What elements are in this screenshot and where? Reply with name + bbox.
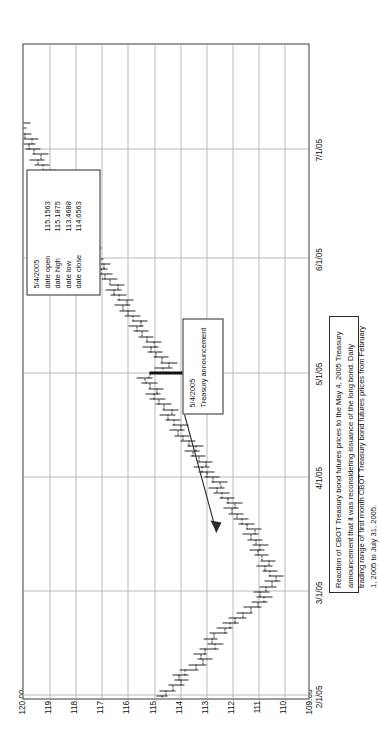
ohlc-open-tick <box>259 591 260 593</box>
price-gridline <box>101 44 102 698</box>
ohlc-open-tick <box>178 674 179 676</box>
ohlc-open-tick <box>149 383 150 385</box>
ohlc-close-tick <box>31 142 32 144</box>
ohlc-open-tick <box>250 534 251 536</box>
ohlc-close-tick <box>127 313 128 315</box>
price-gridline <box>284 44 285 698</box>
ohlc-bar <box>264 579 280 583</box>
ohlc-open-tick <box>257 549 258 551</box>
ohlc-close-tick <box>158 402 159 404</box>
ohlc-close-tick <box>250 610 251 612</box>
ohlc-bar <box>23 136 38 140</box>
ohlc-open-tick <box>173 419 174 421</box>
ohlc-open-tick <box>33 149 34 151</box>
ohlc-open-tick <box>202 659 203 661</box>
annotation-ohlc-row: date high115.1875 <box>52 176 63 288</box>
ohlc-bar <box>207 641 223 645</box>
ohlc-bar <box>22 126 26 130</box>
ohlc-bar <box>238 522 253 526</box>
ohlc-bar <box>222 620 238 624</box>
ohlc-bar <box>101 277 116 281</box>
ohlc-close-tick <box>241 522 242 524</box>
ohlc-close-tick <box>122 308 123 310</box>
price-gridline <box>127 44 128 698</box>
ohlc-open-tick <box>255 539 256 541</box>
ohlc-bar <box>172 423 187 427</box>
ohlc-close-tick <box>202 662 203 664</box>
ohlc-open-tick <box>22 123 23 125</box>
ohlc-close-tick <box>268 563 269 565</box>
annotation-ohlc-value: 113.4688 <box>63 201 74 231</box>
ohlc-open-tick <box>231 508 232 510</box>
ohlc-bar <box>136 376 152 380</box>
ohlc-bar <box>268 574 283 578</box>
ohlc-open-tick <box>40 154 41 156</box>
ohlc-bar <box>256 594 272 598</box>
ohlc-open-tick <box>153 393 154 395</box>
ohlc-open-tick <box>242 612 243 614</box>
ohlc-bar <box>188 662 205 666</box>
ohlc-open-tick <box>103 263 104 265</box>
ohlc-close-tick <box>156 391 157 393</box>
annotation-ohlc-value: 115.1875 <box>52 201 63 231</box>
ohlc-close-tick <box>254 532 255 534</box>
ohlc-close-tick <box>259 594 260 596</box>
ohlc-bar <box>114 303 129 307</box>
ohlc-bar <box>219 496 234 500</box>
ohlc-open-tick <box>171 409 172 411</box>
ohlc-bar <box>247 537 262 541</box>
ohlc-open-tick <box>264 565 265 567</box>
date-tick-label: 2/1/05 <box>314 674 323 718</box>
ohlc-close-tick <box>113 292 114 294</box>
ohlc-bar <box>105 287 120 291</box>
ohlc-close-tick <box>180 428 181 430</box>
ohlc-close-tick <box>271 584 272 586</box>
ohlc-close-tick <box>204 652 205 654</box>
ohlc-high-low-wick <box>197 658 212 659</box>
ohlc-open-tick <box>109 279 110 281</box>
ohlc-high-low-wick <box>259 586 276 587</box>
ohlc-open-tick <box>211 638 212 640</box>
ohlc-close-tick <box>250 537 251 539</box>
ohlc-open-tick <box>24 133 25 135</box>
ohlc-open-tick <box>254 529 255 531</box>
ohlc-bar <box>172 673 188 677</box>
ohlc-close-tick <box>192 454 193 456</box>
ohlc-close-tick <box>216 490 217 492</box>
ohlc-close-tick <box>234 620 235 622</box>
ohlc-close-tick <box>227 501 228 503</box>
ohlc-bar <box>160 360 177 364</box>
ohlc-bar <box>208 485 224 489</box>
ohlc-close-tick <box>149 386 150 388</box>
ohlc-open-tick <box>126 300 127 302</box>
ohlc-open-tick <box>268 560 269 562</box>
ohlc-bar <box>32 152 48 156</box>
ohlc-bar <box>124 313 139 317</box>
ohlc-close-tick <box>126 303 127 305</box>
ohlc-open-tick <box>161 357 162 359</box>
ohlc-open-tick <box>250 607 251 609</box>
ohlc-open-tick <box>259 544 260 546</box>
ohlc-close-tick <box>265 589 266 591</box>
ohlc-open-tick <box>150 346 151 348</box>
ohlc-bar <box>128 324 143 328</box>
ohlc-close-tick <box>22 126 23 128</box>
ohlc-close-tick <box>211 641 212 643</box>
ohlc-open-tick <box>213 633 214 635</box>
annotation-ohlc-row: date open115.1563 <box>42 176 53 288</box>
ohlc-open-tick <box>146 336 147 338</box>
ohlc-open-tick <box>42 164 43 166</box>
ohlc-close-tick <box>261 558 262 560</box>
ohlc-bar <box>242 532 257 536</box>
price-gridline <box>49 44 50 698</box>
ohlc-bar <box>203 636 217 640</box>
ohlc-open-tick <box>155 352 156 354</box>
ohlc-bar <box>249 548 264 552</box>
ohlc-open-tick <box>113 289 114 291</box>
ohlc-close-tick <box>255 542 256 544</box>
ohlc-open-tick <box>198 456 199 458</box>
ohlc-open-tick <box>122 305 123 307</box>
ohlc-open-tick <box>180 425 181 427</box>
ohlc-close-tick <box>257 605 258 607</box>
ohlc-open-tick <box>141 331 142 333</box>
